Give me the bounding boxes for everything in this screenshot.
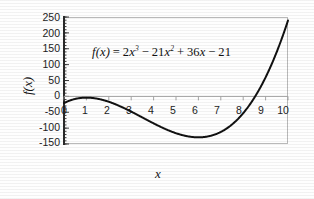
- y-axis-ticks: [64, 17, 69, 144]
- chart-svg: [0, 0, 314, 199]
- figure-container: 250 200 150 100 50 0 -50 -100 -150 0 1 2…: [0, 0, 314, 199]
- function-curve: [64, 20, 288, 137]
